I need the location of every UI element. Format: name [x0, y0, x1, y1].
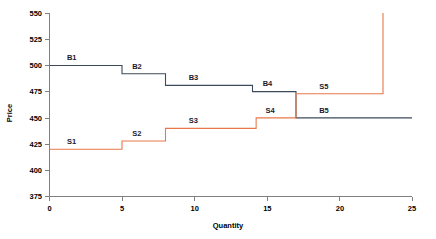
x-tick-label-25: 25: [408, 204, 416, 213]
series-layer: [50, 13, 413, 149]
y-tick-label-375: 375: [29, 192, 42, 201]
price-quantity-step-chart: 550 525 500 475 450 425 400 375 0 5 10 1…: [0, 0, 436, 239]
y-tick-label-475: 475: [29, 87, 42, 96]
y-axis-tick-labels: 550 525 500 475 450 425 400 375: [29, 9, 42, 201]
y-axis-title: Price: [5, 104, 14, 122]
x-axis-ticks: [50, 197, 413, 202]
step-label-s4: S4: [266, 106, 276, 115]
x-tick-label-5: 5: [120, 204, 124, 213]
step-label-s3: S3: [189, 116, 198, 125]
y-tick-label-500: 500: [29, 61, 42, 70]
step-label-b4: B4: [263, 79, 273, 88]
series-step-line-sell: [50, 13, 384, 149]
step-labels-layer: B1B2B3B4B5S1S2S3S4S5: [67, 53, 329, 146]
series-step-line-buy: [50, 65, 413, 117]
y-axis-ticks: [45, 14, 50, 197]
step-label-b1: B1: [67, 53, 77, 62]
y-tick-label-400: 400: [29, 166, 42, 175]
x-axis-tick-labels: 0 5 10 15 20 25: [47, 204, 416, 213]
y-tick-label-525: 525: [29, 35, 42, 44]
step-label-s5: S5: [319, 82, 328, 91]
step-label-s2: S2: [132, 129, 141, 138]
x-axis-title: Quantity: [213, 221, 244, 230]
x-tick-label-20: 20: [336, 204, 344, 213]
step-label-s1: S1: [67, 137, 76, 146]
chart-canvas: 550 525 500 475 450 425 400 375 0 5 10 1…: [0, 0, 436, 239]
y-tick-label-550: 550: [29, 9, 42, 18]
x-tick-label-0: 0: [47, 204, 51, 213]
x-tick-label-15: 15: [263, 204, 271, 213]
y-tick-label-450: 450: [29, 114, 42, 123]
step-label-b5: B5: [319, 106, 329, 115]
step-label-b3: B3: [189, 73, 199, 82]
y-tick-label-425: 425: [29, 140, 42, 149]
step-label-b2: B2: [132, 62, 142, 71]
x-tick-label-10: 10: [191, 204, 199, 213]
